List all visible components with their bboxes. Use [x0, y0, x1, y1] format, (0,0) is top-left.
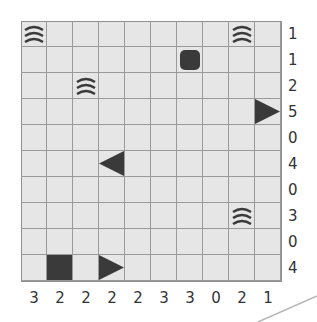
page-curl-line [0, 0, 317, 322]
